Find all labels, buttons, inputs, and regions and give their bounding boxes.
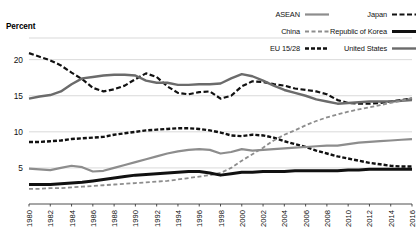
chart-root: Percent ASEAN Japan China Republic of Ko… [0, 0, 417, 239]
series-line-republic-of-korea [29, 169, 412, 184]
x-tick-label: 2010 [344, 210, 353, 227]
line-chart-svg: 5101520 19801982198419861988199019921994… [0, 0, 417, 239]
x-tick-label: 1982 [46, 210, 55, 227]
plot-area: 5101520 19801982198419861988199019921994… [0, 0, 417, 239]
x-tick-label: 1998 [217, 210, 226, 227]
x-tick-label: 1986 [89, 210, 98, 227]
x-tick-label: 2012 [365, 210, 374, 227]
series-line-asean [29, 139, 412, 171]
y-tick-label: 10 [14, 127, 24, 137]
y-tick-label: 15 [14, 91, 24, 101]
x-axis [29, 204, 412, 207]
x-tick-label: 1996 [195, 210, 204, 227]
x-tick-label: 1984 [68, 210, 77, 227]
x-tick-label: 1992 [153, 210, 162, 227]
y-tick-label: 5 [18, 163, 23, 173]
x-tick-label: 2014 [387, 210, 396, 227]
x-tick-label: 1994 [174, 210, 183, 227]
x-tick-label: 2016 [408, 210, 417, 227]
series-lines [29, 53, 412, 189]
y-tick-label: 20 [14, 55, 24, 65]
x-tick-label: 2004 [280, 210, 289, 227]
y-tick-labels: 5101520 [14, 55, 24, 173]
x-tick-label: 1990 [131, 210, 140, 227]
x-tick-labels: 1980198219841986198819901992199419961998… [25, 210, 417, 227]
x-tick-label: 2000 [238, 210, 247, 227]
x-tick-label: 1988 [110, 210, 119, 227]
series-line-eu-15-28 [29, 128, 412, 166]
x-tick-label: 2006 [302, 210, 311, 227]
x-tick-label: 1980 [25, 210, 34, 227]
x-tick-label: 2002 [259, 210, 268, 227]
x-tick-label: 2008 [323, 210, 332, 227]
